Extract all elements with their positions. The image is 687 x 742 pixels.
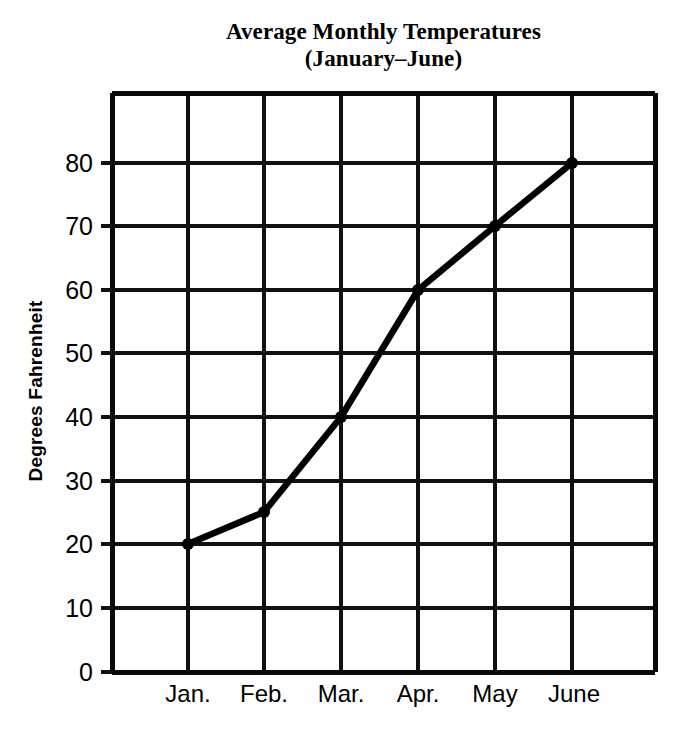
x-tick-label-mar: Mar. [318,680,365,707]
x-axis-tick-labels: Jan. Feb. Mar. Apr. May June [165,680,600,707]
chart-plot-area: 80 70 60 50 40 30 20 10 0 Jan. Feb. Mar.… [0,0,687,742]
y-tick-label: 20 [65,530,93,558]
y-tick-label: 50 [65,339,93,367]
y-tick-label: 10 [65,594,93,622]
x-tick-label-jan: Jan. [165,680,210,707]
y-tick-label: 80 [65,149,93,177]
x-tick-label-apr: Apr. [397,680,440,707]
vertical-gridlines [188,93,572,672]
data-point-mar [335,411,347,423]
x-tick-label-feb: Feb. [240,680,288,707]
data-point-feb [258,506,270,518]
y-tick-label: 70 [65,212,93,240]
y-tick-label: 60 [65,276,93,304]
y-tick-label: 0 [79,658,93,686]
y-axis-tick-labels: 80 70 60 50 40 30 20 10 0 [65,149,93,686]
line-chart-svg: 80 70 60 50 40 30 20 10 0 Jan. Feb. Mar.… [0,0,687,742]
x-tick-label-june: June [548,680,600,707]
data-point-apr [412,284,424,296]
y-tick-label: 30 [65,467,93,495]
x-tick-label-may: May [472,680,517,707]
data-point-june [566,157,578,169]
y-tick-label: 40 [65,403,93,431]
data-point-jan [182,538,194,550]
data-point-may [489,220,501,232]
